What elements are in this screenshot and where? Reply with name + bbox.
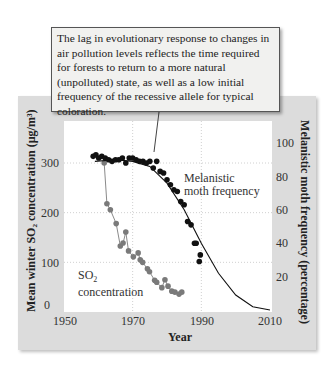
so2-label-line2: concentration (78, 286, 143, 299)
x-axis-label: Year (150, 330, 210, 345)
y-right-tick-100: 100 (276, 136, 294, 151)
so2-label: SO2 concentration (78, 269, 143, 299)
so2-label-line1: SO2 (78, 269, 143, 286)
annotation-callout: The lag in evolutionary response to chan… (51, 27, 280, 112)
y-left-tick-200: 200 (41, 206, 59, 221)
y-left-tick-0: 0 (44, 298, 50, 313)
y-axis-right-label: Melanistic moth frequency (percentage) (297, 112, 312, 332)
x-tick-1970: 1970 (121, 314, 145, 329)
y-left-tick-300: 300 (41, 156, 59, 171)
y-left-tick-100: 100 (41, 256, 59, 271)
y-axis-left-label: Mean winter SO₂ concentration (µg/m³) (24, 112, 39, 312)
y-right-tick-80: 80 (276, 170, 288, 185)
melanistic-label-line2: moth frequency (184, 185, 260, 198)
x-tick-1950: 1950 (53, 314, 77, 329)
melanistic-label: Melanistic moth frequency (184, 172, 260, 198)
y-right-tick-20: 20 (276, 270, 288, 285)
x-tick-1990: 1990 (190, 314, 214, 329)
y-right-tick-40: 40 (276, 236, 288, 251)
callout-text: The lag in evolutionary response to chan… (57, 32, 269, 117)
x-tick-2010: 2010 (258, 314, 282, 329)
y-right-tick-60: 60 (276, 203, 288, 218)
